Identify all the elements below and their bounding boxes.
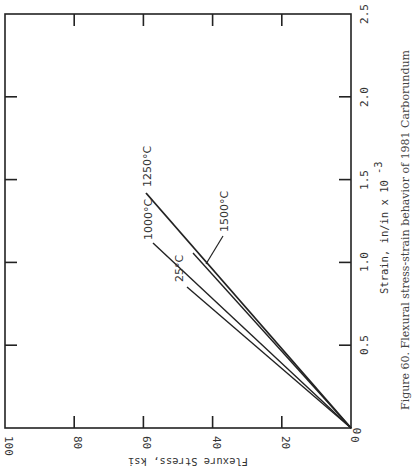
stress-tick-20: 20 — [279, 436, 292, 449]
strain-tick-2.5: 2.5 — [358, 4, 371, 24]
stress-tick-40: 40 — [210, 436, 223, 449]
stress-tick-0: 0 — [348, 436, 361, 443]
strain-tick-1.5: 1.5 — [358, 170, 371, 190]
chart: 0 20 40 60 80 100 Flexure Stress, ksi 0 … — [0, 0, 415, 467]
strain-axis-title-exp: -3 — [372, 161, 384, 174]
label-1250C: 1250°C — [141, 146, 154, 187]
strain-tick-labels: 0 0.5 1.0 1.5 2.0 2.5 — [351, 4, 371, 434]
strain-tick-2.0: 2.0 — [358, 87, 371, 107]
strain-ticks — [5, 97, 351, 345]
label-1500C: 1500°C — [218, 191, 231, 232]
label-1000C: 1000°C — [142, 199, 155, 240]
stress-tick-80: 80 — [71, 436, 84, 449]
figure-caption: Figure 60. Flexural stress-strain behavi… — [399, 49, 412, 410]
series-25C — [187, 287, 351, 428]
series-1500C — [193, 253, 351, 428]
stress-tick-100: 100 — [2, 436, 15, 456]
strain-tick-0: 0 — [351, 428, 364, 435]
series-1250C — [146, 193, 351, 428]
label-25C: 25°C — [173, 255, 186, 282]
stress-tick-60: 60 — [140, 436, 153, 449]
stress-ticks — [74, 14, 282, 428]
stress-axis-title: Flexure Stress, ksi — [128, 456, 248, 467]
stress-tick-labels: 0 20 40 60 80 100 — [2, 436, 361, 456]
strain-axis-title: Strain, in/in x 10 -3 — [372, 161, 390, 294]
strain-tick-0.5: 0.5 — [358, 335, 371, 355]
plot-frame — [5, 14, 351, 428]
leader-1500C — [206, 236, 223, 264]
series-lines — [146, 193, 351, 428]
strain-tick-1.0: 1.0 — [358, 252, 371, 272]
strain-axis-title-main: Strain, in/in x 10 — [378, 180, 390, 294]
